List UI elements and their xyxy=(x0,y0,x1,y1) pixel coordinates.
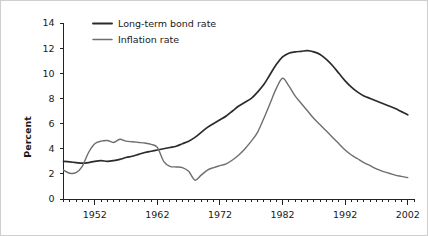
y-axis-tick-labels: 02468101214 xyxy=(42,17,54,204)
y-axis-title: Percent xyxy=(22,116,33,158)
x-tick-label-1962: 1962 xyxy=(145,209,169,220)
y-tick-label-2: 2 xyxy=(48,168,54,179)
x-tick-label-1982: 1982 xyxy=(270,209,294,220)
legend-label-inflation-rate: Inflation rate xyxy=(118,34,179,45)
y-tick-label-10: 10 xyxy=(42,68,54,79)
x-tick-label-1992: 1992 xyxy=(333,209,357,220)
x-axis-tick-labels: 195219621972198219922002 xyxy=(83,209,420,220)
legend-label-long-term-bond-rate: Long-term bond rate xyxy=(118,18,216,29)
y-tick-label-8: 8 xyxy=(48,93,54,104)
series-line-inflation-rate xyxy=(64,78,408,180)
line-chart: Percent 02468101214 19521962197219821992… xyxy=(1,1,428,236)
y-axis-ticks xyxy=(60,23,64,199)
x-tick-label-1972: 1972 xyxy=(208,209,232,220)
y-tick-label-12: 12 xyxy=(42,43,54,54)
chart-figure: Percent 02468101214 19521962197219821992… xyxy=(0,0,428,236)
series-line-long-term-bond-rate xyxy=(64,51,408,164)
y-tick-label-14: 14 xyxy=(42,17,54,28)
y-tick-label-0: 0 xyxy=(48,193,54,204)
x-tick-label-2002: 2002 xyxy=(396,209,420,220)
y-tick-label-6: 6 xyxy=(48,118,54,129)
series-lines xyxy=(64,51,408,181)
x-tick-label-1952: 1952 xyxy=(83,209,107,220)
chart-legend: Long-term bond rate Inflation rate xyxy=(93,18,216,45)
y-tick-label-4: 4 xyxy=(48,143,54,154)
